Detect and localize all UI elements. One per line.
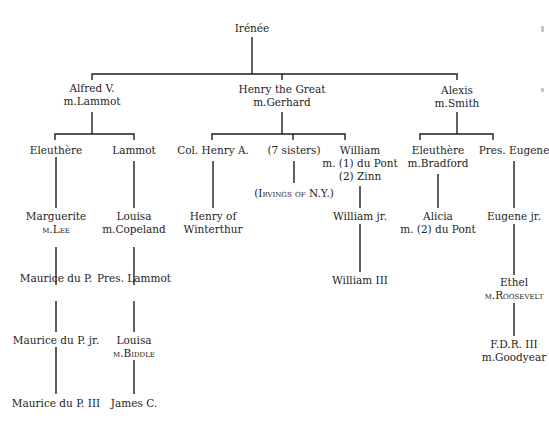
node-label: Henry the Great: [238, 83, 325, 96]
node-label: Pres. Eugene: [479, 144, 549, 157]
node-james: James C.: [111, 397, 157, 410]
node-col-henry: Col. Henry A.: [177, 144, 249, 157]
node-label: Eugene jr.: [487, 210, 541, 223]
node-label: Marguerite: [26, 210, 87, 223]
node-label: William jr.: [333, 210, 387, 223]
spouse-label: m.Lammot: [64, 95, 121, 108]
node-fdr-iii: F.D.R. IIIm.Goodyear: [482, 338, 546, 364]
spouse-label: (2) Zinn: [322, 170, 398, 183]
node-label: (Irvings of N.Y.): [254, 187, 334, 200]
node-henry-of-winterthur: Henry ofWinterthur: [184, 210, 243, 236]
node-label: Lammot: [112, 144, 156, 157]
node-alfred: Alfred V.m.Lammot: [64, 82, 121, 108]
node-seven-sisters: (7 sisters): [267, 144, 320, 157]
node-label: Col. Henry A.: [177, 144, 249, 157]
node-irvings: (Irvings of N.Y.): [254, 187, 334, 200]
node-label: Alexis: [435, 84, 480, 97]
node-lammot: Lammot: [112, 144, 156, 157]
node-louisa-biddle: Louisam.Biddle: [113, 334, 155, 360]
node-maurice: Maurice du P.: [20, 272, 93, 285]
node-marguerite: Margueritem.Lee: [26, 210, 87, 236]
node-eleuthere-bradford: Eleuthèrem.Bradford: [408, 144, 469, 170]
node-alexis: Alexism.Smith: [435, 84, 480, 110]
node-label: Irénée: [235, 22, 270, 35]
node-label: James C.: [111, 397, 157, 410]
node-label: Pres. Lammot: [97, 272, 171, 285]
spouse-label: m.Gerhard: [238, 96, 325, 109]
spouse-label: m.Biddle: [113, 347, 155, 360]
spouse-label: m. (2) du Pont: [400, 223, 476, 236]
node-label: Winterthur: [184, 223, 243, 236]
node-pres-eugene: Pres. Eugene: [479, 144, 549, 157]
node-label: Maurice du P. jr.: [13, 334, 99, 347]
node-label: F.D.R. III: [482, 338, 546, 351]
node-label: Alicia: [400, 210, 476, 223]
node-william: Williamm. (1) du Pont(2) Zinn: [322, 144, 398, 183]
node-label: Louisa: [113, 334, 155, 347]
spouse-label: m.Bradford: [408, 157, 469, 170]
node-label: William III: [332, 274, 388, 287]
node-label: Ethel: [485, 276, 544, 289]
node-eleuthere: Eleuthère: [30, 144, 82, 157]
spouse-label: m.Roosevelt: [485, 289, 544, 302]
node-label: Eleuthère: [408, 144, 469, 157]
spouse-label: m.Lee: [26, 223, 87, 236]
node-william-iii: William III: [332, 274, 388, 287]
node-maurice-jr: Maurice du P. jr.: [13, 334, 99, 347]
node-william-jr: William jr.: [333, 210, 387, 223]
node-eugene-jr: Eugene jr.: [487, 210, 541, 223]
node-label: Eleuthère: [30, 144, 82, 157]
node-louisa-copeland: Louisam.Copeland: [102, 210, 166, 236]
node-label: Maurice du P. III: [12, 397, 100, 410]
scan-artifact: [541, 26, 544, 32]
spouse-label: m.Goodyear: [482, 351, 546, 364]
spouse-label: m.Smith: [435, 97, 480, 110]
spouse-label: m.Copeland: [102, 223, 166, 236]
node-label: (7 sisters): [267, 144, 320, 157]
spouse-label: m. (1) du Pont: [322, 157, 398, 170]
scan-artifact: [541, 88, 544, 92]
node-label: Alfred V.: [64, 82, 121, 95]
node-irenee: Irénée: [235, 22, 270, 35]
node-alicia: Aliciam. (2) du Pont: [400, 210, 476, 236]
node-label: Henry of: [184, 210, 243, 223]
node-ethel: Ethelm.Roosevelt: [485, 276, 544, 302]
node-label: William: [322, 144, 398, 157]
node-label: Louisa: [102, 210, 166, 223]
node-henry-the-great: Henry the Greatm.Gerhard: [238, 83, 325, 109]
node-maurice-iii: Maurice du P. III: [12, 397, 100, 410]
node-pres-lammot: Pres. Lammot: [97, 272, 171, 285]
node-label: Maurice du P.: [20, 272, 93, 285]
